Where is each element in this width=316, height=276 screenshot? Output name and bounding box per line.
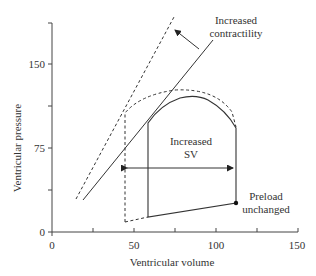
contractility-label-line2: contractility — [209, 27, 263, 39]
contractility-label-line1: Increased — [215, 14, 258, 26]
y-tick-label-150: 150 — [29, 58, 46, 70]
x-tick-label-100: 100 — [208, 239, 225, 251]
pressure-volume-diagram: 0 50 100 150 0 75 150 Ventricular volume… — [0, 0, 316, 276]
pv-loop-dashed — [125, 90, 236, 222]
y-axis — [48, 23, 52, 232]
preload-label-line2: unchanged — [242, 203, 290, 215]
x-axis-title: Ventricular volume — [130, 256, 215, 268]
sv-label-line2: SV — [184, 148, 198, 160]
sv-label-line1: Increased — [170, 135, 213, 147]
contractility-arrow — [175, 30, 199, 49]
x-tick-label-0: 0 — [49, 239, 55, 251]
x-tick-label-50: 50 — [129, 239, 141, 251]
pv-loop-dashed-bottom — [125, 217, 148, 222]
y-axis-title: Ventricular pressure — [11, 104, 23, 192]
x-axis — [52, 228, 298, 236]
x-tick-label-150: 150 — [289, 239, 306, 251]
preload-point-marker — [234, 201, 238, 205]
y-tick-label-75: 75 — [34, 142, 46, 154]
preload-label-line1: Preload — [249, 190, 283, 202]
y-tick-label-0: 0 — [40, 226, 46, 238]
